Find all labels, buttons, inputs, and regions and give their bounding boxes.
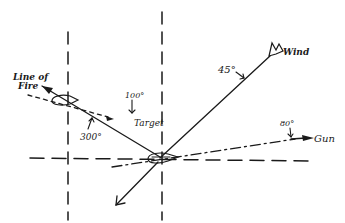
- gunnery-vector-diagram: Line of Fire 100° Target 300° 45° Wind 8…: [0, 0, 345, 223]
- target-arrowhead: [106, 116, 114, 121]
- gun-label: Gun: [314, 133, 335, 144]
- gun-direction-line: [112, 139, 295, 167]
- angle-45-label: 45°: [217, 64, 236, 75]
- target-label: Target: [134, 118, 164, 128]
- angle-100-label: 100°: [125, 91, 144, 100]
- angle-300-label: 300°: [80, 132, 102, 142]
- wind-vector: [160, 56, 270, 158]
- line-of-fire-arrowhead: [42, 86, 53, 94]
- resultant-vector: [116, 162, 158, 205]
- line-of-fire-label-line2: Fire: [17, 81, 39, 91]
- wind-label: Wind: [283, 47, 310, 57]
- angle-80-label: 80°: [280, 119, 294, 128]
- wind-feather-icon: [269, 43, 283, 56]
